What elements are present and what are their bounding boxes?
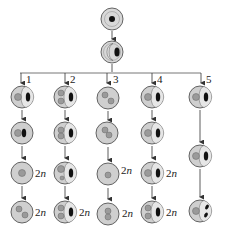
col1-cell-row1 bbox=[11, 86, 34, 108]
col5-cell-row2 bbox=[189, 145, 212, 167]
branch-label-3: 3 bbox=[113, 73, 119, 85]
col5-cell-row3 bbox=[189, 200, 212, 222]
col1-cell-row3 bbox=[11, 162, 33, 184]
col3-cell-row1 bbox=[97, 87, 119, 109]
col1-cell-row2 bbox=[11, 122, 33, 144]
second-cell bbox=[101, 41, 123, 63]
branch-label-1: 1 bbox=[26, 73, 32, 85]
dark-nucleus-icon bbox=[109, 16, 115, 22]
branch-label-2: 2 bbox=[70, 73, 76, 85]
col4-cell-row2 bbox=[141, 122, 164, 144]
col4-cell-row3 bbox=[141, 162, 164, 184]
col3-cell-row2 bbox=[96, 122, 118, 144]
branch-label-5: 5 bbox=[206, 73, 212, 85]
col2-cell-row1 bbox=[54, 86, 77, 108]
ploidy-label: 2n bbox=[122, 207, 134, 219]
ploidy-label: 2n bbox=[35, 167, 47, 179]
col5-cell-row1 bbox=[189, 86, 212, 108]
col3-cell-row3 bbox=[97, 163, 119, 185]
dark-body-icon bbox=[114, 48, 119, 57]
ploidy-label: 2n bbox=[35, 206, 47, 218]
top-cell bbox=[101, 8, 123, 30]
col2-cell-row2 bbox=[54, 122, 77, 144]
col2-cell-row4 bbox=[54, 201, 77, 223]
ploidy-label: 2n bbox=[166, 206, 178, 218]
col2-cell-row3 bbox=[54, 162, 77, 184]
ploidy-label: 2n bbox=[166, 167, 178, 179]
col1-cell-row4 bbox=[11, 201, 33, 223]
ploidy-label: 2n bbox=[121, 164, 133, 176]
ploidy-label: 2n bbox=[79, 206, 91, 218]
col4-cell-row1 bbox=[141, 86, 164, 108]
branch-label-4: 4 bbox=[157, 73, 163, 85]
cell-lineage-diagram: 1 2 3 4 5 2n 2n bbox=[0, 0, 225, 242]
col4-cell-row4 bbox=[141, 201, 164, 223]
col3-cell-row4 bbox=[97, 203, 119, 225]
